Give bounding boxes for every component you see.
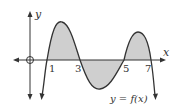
- tick-label-1: 1: [49, 63, 55, 74]
- y-axis-down-arrow: [28, 94, 33, 100]
- tick-label-7: 7: [145, 63, 151, 74]
- x-axis-label: x: [163, 46, 170, 59]
- curve-left-arrow: [40, 93, 45, 100]
- shaded-region-1-3: [47, 22, 80, 60]
- graph-figure: y x 1 3 5 7 y = f(x): [0, 0, 177, 111]
- shaded-region-3-5: [80, 60, 124, 89]
- y-axis-up-arrow: [28, 11, 33, 17]
- y-axis-label: y: [34, 8, 42, 21]
- curve-right-arrow: [153, 94, 158, 101]
- tick-label-5: 5: [123, 63, 129, 74]
- x-axis-left-arrow: [13, 58, 19, 63]
- curve-label: y = f(x): [109, 93, 148, 104]
- tick-label-3: 3: [75, 63, 81, 74]
